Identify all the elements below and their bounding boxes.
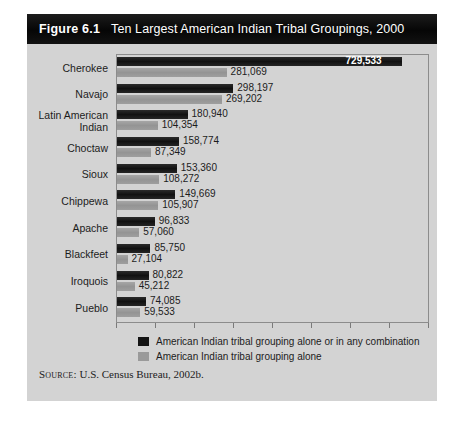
legend-item-combination: American Indian tribal grouping alone or… bbox=[138, 335, 420, 348]
bar-group: 74,08559,533 bbox=[117, 295, 429, 322]
bar-value-label: 153,360 bbox=[181, 163, 217, 172]
bar-value-label: 729,533 bbox=[346, 56, 382, 65]
category-label: Iroquois bbox=[27, 269, 111, 296]
category-label: Choctaw bbox=[27, 135, 111, 162]
bar-group: 158,77487,349 bbox=[117, 135, 429, 162]
bar-value-label: 45,212 bbox=[139, 281, 170, 290]
category-label-line: Indian bbox=[79, 122, 108, 134]
category-label-line: Chippewa bbox=[61, 196, 108, 208]
legend-swatch-alone-icon bbox=[138, 352, 149, 361]
category-axis-labels: CherokeeNavajoLatin AmericanIndianChocta… bbox=[27, 55, 111, 322]
bar-combo bbox=[117, 244, 150, 253]
axis-tick bbox=[233, 323, 234, 328]
bar-value-label: 74,085 bbox=[150, 296, 181, 305]
figure-number: Figure 6.1 bbox=[39, 22, 100, 36]
axis-tick bbox=[428, 323, 429, 328]
category-label-line: Pueblo bbox=[75, 303, 108, 315]
axis-tick bbox=[311, 323, 312, 328]
bar-combo bbox=[117, 190, 175, 199]
category-label: Sioux bbox=[27, 162, 111, 189]
category-label: Blackfeet bbox=[27, 242, 111, 269]
bar-alone bbox=[117, 255, 128, 264]
bar-group: 180,940104,354 bbox=[117, 108, 429, 135]
bar-combo bbox=[117, 110, 188, 119]
bar-value-label: 87,349 bbox=[155, 147, 186, 156]
category-label-line: Sioux bbox=[82, 169, 108, 181]
bar-value-label: 27,104 bbox=[132, 254, 163, 263]
bar-combo bbox=[117, 164, 177, 173]
bar-alone bbox=[117, 201, 158, 210]
bar-combo bbox=[117, 84, 233, 93]
bar-group: 80,82245,212 bbox=[117, 269, 429, 296]
bar-value-label: 298,197 bbox=[237, 83, 273, 92]
value-axis-ticks bbox=[116, 323, 429, 329]
legend-item-alone: American Indian tribal grouping alone bbox=[138, 350, 420, 363]
bar-alone bbox=[117, 175, 159, 184]
category-label-line: Apache bbox=[72, 223, 108, 235]
bar-alone bbox=[117, 282, 135, 291]
figure-container: Figure 6.1 Ten Largest American Indian T… bbox=[27, 14, 437, 401]
bar-value-label: 57,060 bbox=[143, 227, 174, 236]
legend-label-alone: American Indian tribal grouping alone bbox=[156, 351, 322, 362]
axis-tick bbox=[350, 323, 351, 328]
category-label: Cherokee bbox=[27, 55, 111, 82]
category-label-line: Latin American bbox=[39, 110, 108, 122]
bar-rows: 729,533281,069298,197269,202180,940104,3… bbox=[117, 55, 429, 322]
bar-value-label: 80,822 bbox=[153, 270, 184, 279]
bar-value-label: 108,272 bbox=[163, 174, 199, 183]
category-label: Apache bbox=[27, 215, 111, 242]
category-label-line: Choctaw bbox=[67, 143, 108, 155]
axis-tick bbox=[272, 323, 273, 328]
bar-alone bbox=[117, 95, 222, 104]
bar-value-label: 281,069 bbox=[231, 67, 267, 76]
bar-value-label: 59,533 bbox=[144, 307, 175, 316]
bar-alone bbox=[117, 121, 158, 130]
category-label-line: Cherokee bbox=[62, 63, 108, 75]
axis-tick bbox=[194, 323, 195, 328]
source-text: U.S. Census Bureau, 2002b. bbox=[79, 368, 203, 380]
bar-combo bbox=[117, 297, 146, 306]
category-label-line: Navajo bbox=[75, 89, 108, 101]
bar-group: 153,360108,272 bbox=[117, 162, 429, 189]
source-label: Source: bbox=[39, 368, 77, 380]
bar-value-label: 149,669 bbox=[179, 189, 215, 198]
bar-value-label: 158,774 bbox=[183, 136, 219, 145]
bar-group: 149,669105,907 bbox=[117, 188, 429, 215]
legend-label-combination: American Indian tribal grouping alone or… bbox=[156, 336, 420, 347]
bar-value-label: 105,907 bbox=[162, 200, 198, 209]
bar-group: 85,75027,104 bbox=[117, 242, 429, 269]
bar-group: 96,83357,060 bbox=[117, 215, 429, 242]
bar-combo bbox=[117, 271, 149, 280]
figure-body-panel: CherokeeNavajoLatin AmericanIndianChocta… bbox=[27, 44, 437, 401]
bar-alone bbox=[117, 148, 151, 157]
bar-alone bbox=[117, 308, 140, 317]
bar-combo bbox=[117, 137, 179, 146]
category-label: Pueblo bbox=[27, 295, 111, 322]
bar-value-label: 104,354 bbox=[162, 120, 198, 129]
bar-group: 729,533281,069 bbox=[117, 55, 429, 82]
chart-legend: American Indian tribal grouping alone or… bbox=[138, 335, 420, 365]
category-label-line: Blackfeet bbox=[65, 249, 108, 261]
figure-title-bar: Figure 6.1 Ten Largest American Indian T… bbox=[27, 14, 437, 44]
bar-value-label: 180,940 bbox=[192, 109, 228, 118]
category-label: Navajo bbox=[27, 82, 111, 109]
bar-alone bbox=[117, 68, 227, 77]
bar-value-label: 85,750 bbox=[154, 243, 185, 252]
axis-tick bbox=[155, 323, 156, 328]
category-label: Latin AmericanIndian bbox=[27, 108, 111, 135]
bar-value-label: 96,833 bbox=[159, 216, 190, 225]
axis-tick bbox=[389, 323, 390, 328]
source-note: Source: U.S. Census Bureau, 2002b. bbox=[39, 368, 204, 380]
category-label-line: Iroquois bbox=[71, 276, 108, 288]
category-label: Chippewa bbox=[27, 188, 111, 215]
bar-group: 298,197269,202 bbox=[117, 82, 429, 109]
axis-tick bbox=[116, 323, 117, 328]
legend-swatch-combination-icon bbox=[138, 337, 149, 346]
figure-title: Ten Largest American Indian Tribal Group… bbox=[111, 22, 404, 36]
bar-alone bbox=[117, 228, 139, 237]
bar-combo bbox=[117, 217, 155, 226]
bar-value-label: 269,202 bbox=[226, 94, 262, 103]
